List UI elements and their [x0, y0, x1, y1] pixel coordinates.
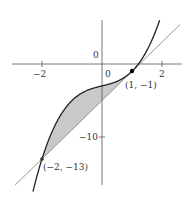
label-y-neg10: −10: [79, 132, 98, 142]
label-x-neg2: −2: [33, 69, 46, 79]
label-x-2: 2: [159, 69, 165, 79]
graph-canvas: 0 0 −2 2 −10 (1, −1) (−2, −13): [0, 0, 192, 197]
tangent-line: [15, 25, 180, 186]
point-neg2-neg13: [40, 157, 44, 161]
label-point-neg2-neg13: (−2, −13): [43, 162, 88, 172]
label-y-zero: 0: [93, 50, 99, 60]
label-point-1-neg1: (1, −1): [125, 80, 157, 90]
label-x-zero: 0: [105, 69, 111, 79]
point-1-neg1: [130, 69, 134, 73]
